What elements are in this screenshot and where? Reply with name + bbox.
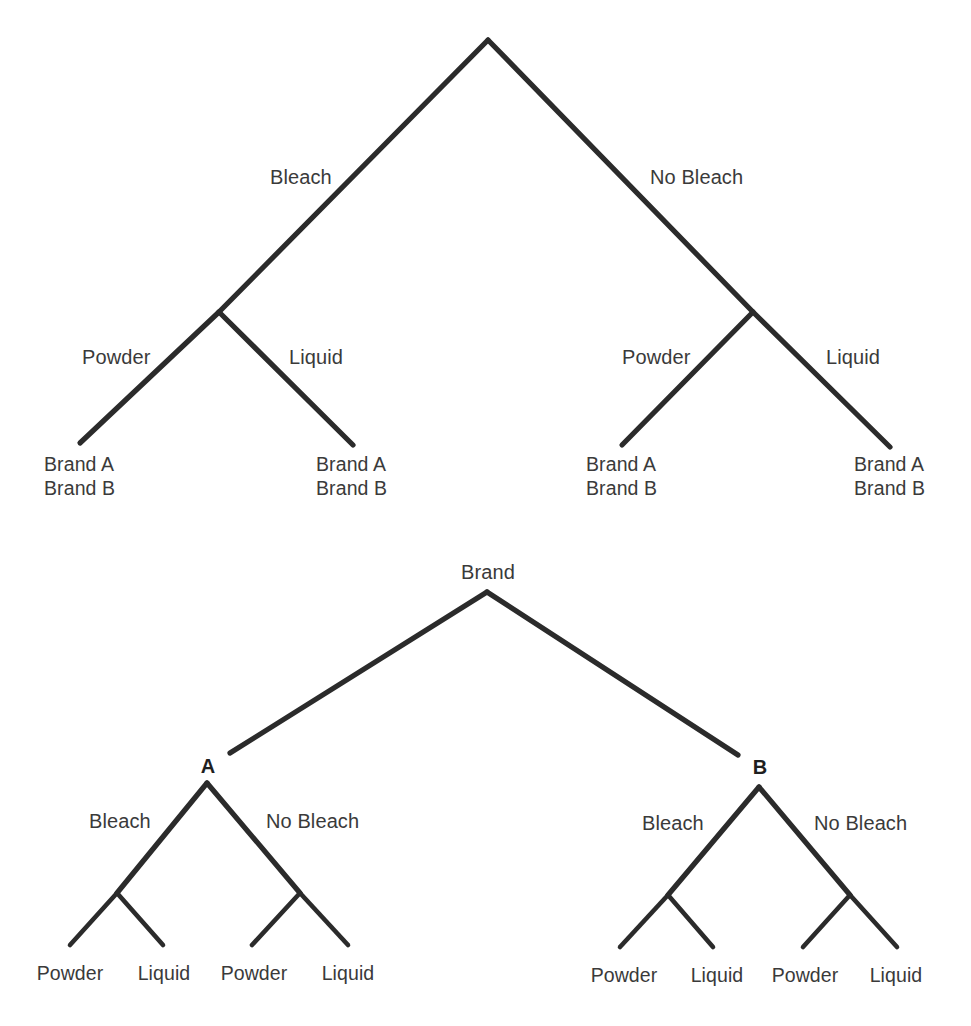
bottom-branch-b-bleach-liquid — [668, 895, 713, 947]
bottom-leaf-7-powder: Powder — [772, 964, 839, 988]
bottom-leaf-5-powder: Powder — [591, 964, 658, 988]
bottom-root-label-brand: Brand — [461, 560, 515, 584]
top-leaf-1-brand-a: Brand A — [44, 453, 114, 477]
top-leaf-4-brand-a: Brand A — [854, 453, 924, 477]
top-leaf-2-brand-a: Brand A — [316, 453, 386, 477]
bottom-branch-root-left — [230, 592, 487, 753]
diagram-page: Bleach No Bleach Powder Liquid Powder Li… — [0, 0, 971, 1026]
top-leaf-2-brand-b: Brand B — [316, 477, 387, 501]
bottom-branch-b-nobleach-liquid — [850, 895, 897, 947]
bottom-leaf-3-powder: Powder — [221, 962, 288, 986]
top-edge-label-no-bleach: No Bleach — [650, 165, 743, 189]
bottom-branch-a-bleach-liquid — [117, 893, 163, 945]
top-edge-label-powder-left: Powder — [82, 345, 150, 369]
top-leaf-3-brand-b: Brand B — [586, 477, 657, 501]
bottom-branch-a-nobleach-liquid — [300, 893, 348, 945]
top-edge-label-bleach: Bleach — [270, 165, 332, 189]
bottom-node-label-b: B — [753, 755, 768, 779]
top-branch-root-left — [219, 40, 488, 312]
bottom-leaf-6-liquid: Liquid — [691, 964, 744, 988]
bottom-branch-a-nobleach — [207, 783, 300, 893]
tree-lines-canvas — [0, 0, 971, 1026]
bottom-edge-label-b-no-bleach: No Bleach — [814, 811, 907, 835]
top-branch-right-liquid — [753, 312, 890, 447]
top-edge-label-powder-right: Powder — [622, 345, 690, 369]
top-branch-right-powder — [622, 312, 753, 445]
top-leaf-4-brand-b: Brand B — [854, 477, 925, 501]
bottom-branch-b-bleach — [668, 787, 759, 895]
bottom-branch-root-right — [487, 592, 738, 755]
bottom-leaf-1-powder: Powder — [37, 962, 104, 986]
bottom-branch-b-nobleach — [759, 787, 850, 895]
bottom-edge-label-a-no-bleach: No Bleach — [266, 809, 359, 833]
bottom-branch-a-bleach-powder — [70, 893, 117, 945]
bottom-branch-b-nobleach-powder — [803, 895, 850, 947]
bottom-node-label-a: A — [201, 754, 216, 778]
top-branch-left-powder — [80, 312, 219, 443]
bottom-branch-b-bleach-powder — [620, 895, 668, 947]
bottom-leaf-2-liquid: Liquid — [138, 962, 191, 986]
top-leaf-3-brand-a: Brand A — [586, 453, 656, 477]
top-edge-label-liquid-right: Liquid — [826, 345, 880, 369]
bottom-branch-a-bleach — [117, 783, 207, 893]
bottom-edge-label-b-bleach: Bleach — [642, 811, 704, 835]
bottom-leaf-8-liquid: Liquid — [870, 964, 923, 988]
top-leaf-1-brand-b: Brand B — [44, 477, 115, 501]
top-branch-left-liquid — [219, 312, 353, 445]
bottom-edge-label-a-bleach: Bleach — [89, 809, 151, 833]
bottom-branch-a-nobleach-powder — [252, 893, 300, 945]
top-edge-label-liquid-left: Liquid — [289, 345, 343, 369]
bottom-leaf-4-liquid: Liquid — [322, 962, 375, 986]
